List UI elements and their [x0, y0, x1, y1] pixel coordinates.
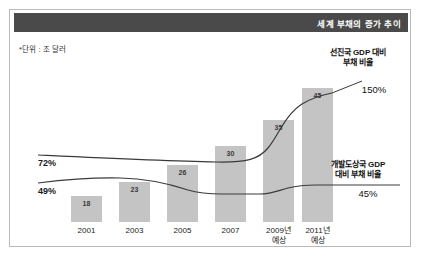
bar-series — [71, 88, 333, 222]
callout-advanced-line2: 부채 비율 — [306, 58, 410, 68]
x-label-2005-line1: 2005 — [157, 226, 208, 236]
start-value-advanced: 72% — [38, 158, 56, 168]
x-label-2011-line1: 2011년 — [292, 226, 343, 236]
plot-area: 18 23 26 30 35 45 2001 2003 2005 2007 20… — [10, 10, 412, 248]
bar-value-2003: 23 — [119, 186, 150, 193]
callout-developing-line1: 개발도상국 GDP — [306, 160, 410, 170]
chart-svg — [10, 10, 412, 248]
x-label-2011-line2: 예상 — [292, 236, 343, 246]
x-label-2001: 2001 — [61, 226, 112, 236]
bar-value-2009: 35 — [263, 124, 294, 131]
callout-developing-value: 45% — [328, 188, 408, 199]
callout-developing-line2: 대비 부채 비율 — [306, 170, 410, 180]
x-label-2003: 2003 — [109, 226, 160, 236]
callout-advanced-value: 150% — [344, 84, 404, 95]
x-label-2001-line1: 2001 — [61, 226, 112, 236]
bar-value-2011: 45 — [302, 92, 333, 99]
bar-2011 — [302, 88, 333, 222]
x-label-2003-line1: 2003 — [109, 226, 160, 236]
bar-value-2007: 30 — [215, 150, 246, 157]
bar-2007 — [215, 146, 246, 222]
bar-value-2001: 18 — [71, 200, 102, 207]
bar-value-2005: 26 — [167, 169, 198, 176]
x-label-2005: 2005 — [157, 226, 208, 236]
bar-2009 — [263, 120, 294, 222]
chart-frame: 세계 부채의 증가 추이 *단위 : 조 달러 — [9, 9, 411, 247]
x-label-2007-line1: 2007 — [205, 226, 256, 236]
x-label-2011: 2011년 예상 — [292, 226, 343, 245]
callout-advanced-line1: 선진국 GDP 대비 — [306, 48, 410, 58]
start-value-developing: 49% — [38, 186, 56, 196]
callout-advanced-label: 선진국 GDP 대비 부채 비율 — [306, 48, 410, 68]
x-label-2007: 2007 — [205, 226, 256, 236]
callout-developing-label: 개발도상국 GDP 대비 부채 비율 — [306, 160, 410, 180]
